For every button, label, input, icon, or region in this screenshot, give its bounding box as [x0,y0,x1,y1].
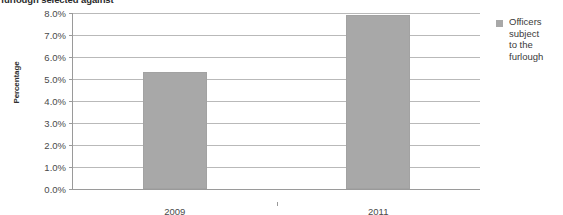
chart-title-text: furlough selected against [1,0,114,5]
bar [143,72,207,189]
legend-label-line: to the [509,39,563,51]
y-axis-tick-mark [69,145,73,146]
gridline [73,167,480,168]
y-axis-tick-label: 1.0% [44,162,66,173]
x-axis-category-label: 2009 [164,206,185,215]
x-axis-tick-mark [277,202,278,206]
gridline [73,101,480,102]
y-axis-tick-mark [69,123,73,124]
y-axis-tick-mark [69,13,73,14]
chart-title-clipped: furlough selected against [0,0,563,6]
y-axis-tick-mark [69,57,73,58]
gridline [73,57,480,58]
y-axis-tick-label: 6.0% [44,52,66,63]
y-axis-tick-label: 5.0% [44,74,66,85]
y-axis-tick-mark [69,79,73,80]
legend-swatch-icon [496,20,503,27]
y-axis-tick-label: 4.0% [44,96,66,107]
y-axis-title: Percentage [12,33,21,133]
y-axis-tick-label: 7.0% [44,30,66,41]
y-axis-tick-label: 2.0% [44,140,66,151]
y-axis-tick-label: 8.0% [44,8,66,19]
plot-area: 0.0%1.0%2.0%3.0%4.0%5.0%6.0%7.0%8.0% 200… [73,13,480,189]
legend-label-line: Officers [509,16,563,28]
gridline [73,13,480,14]
y-axis-tick-label: 3.0% [44,118,66,129]
gridline [73,79,480,80]
y-axis-tick-mark [69,189,73,190]
y-axis-tick-mark [69,101,73,102]
bar-chart: furlough selected against Percentage 0.0… [0,0,563,215]
gridline [73,35,480,36]
y-axis-tick-label: 0.0% [44,184,66,195]
y-axis-tick-mark [69,35,73,36]
legend-label: Officerssubjectto thefurlough [509,16,563,62]
bar [346,15,410,189]
gridline [73,189,480,190]
gridline [73,145,480,146]
legend-label-line: subject [509,28,563,40]
y-axis-tick-mark [69,167,73,168]
gridline [73,123,480,124]
x-axis-category-label: 2011 [368,206,388,215]
legend-label-line: furlough [509,51,563,63]
